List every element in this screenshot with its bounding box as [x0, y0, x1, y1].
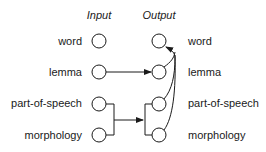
output-node-lemma — [152, 65, 166, 79]
input-bracket — [106, 104, 114, 135]
curve-pos-to-word — [164, 58, 175, 99]
diagram-graphics — [0, 0, 266, 152]
input-node-lemma — [92, 65, 106, 79]
output-nodes — [152, 34, 166, 142]
diagram-canvas: Input Output word lemma part-of-speech m… — [0, 0, 266, 152]
input-node-morphology — [92, 128, 106, 142]
curved-edges-to-word — [164, 47, 175, 130]
output-node-morphology — [152, 128, 166, 142]
input-node-word — [92, 34, 106, 48]
output-node-part-of-speech — [152, 97, 166, 111]
input-nodes — [92, 34, 106, 142]
output-bracket — [145, 104, 152, 135]
input-node-part-of-speech — [92, 97, 106, 111]
output-node-word — [152, 34, 166, 48]
curve-lemma-to-word — [164, 52, 175, 67]
